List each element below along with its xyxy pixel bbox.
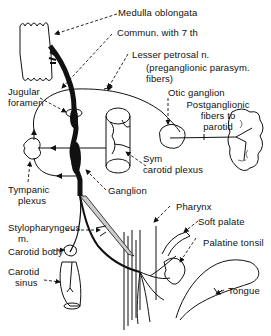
label-carotid-plexus: carotid plexus [143,164,203,175]
label-plexus: plexus [18,195,46,206]
medulla-shape [20,23,52,81]
label-foramen: foramen [8,97,44,108]
label-tongue: Tongue [228,285,260,296]
pharynx-shape [124,226,156,330]
label-lesser-petrosal-line3: fibers) [146,73,173,84]
label-parotid: parotid [180,121,256,132]
label-jugular: Jugular [8,86,40,97]
label-carotid-body: Carotid body [8,246,63,257]
label-postganglionic-fibers-to: fibers to [180,110,256,121]
label-sym: Sym [143,153,162,164]
carotid-cylinder [106,108,130,124]
label-stylopharyngeus: Stylopharyngeus [8,222,80,233]
label-lesser-petrosal: Lesser petrosal n. [132,49,209,60]
label-sinus: sinus [15,277,38,288]
label-carotid: Carotid [8,266,39,277]
tympanic-plexus-shape [24,138,41,159]
label-ganglion: Ganglion [108,185,147,196]
tympanic-loop [33,89,180,132]
label-palatine-tonsil: Palatine tonsil [203,237,264,248]
label-pharynx: Pharynx [176,201,212,212]
label-stylopharyngeus-m: m. [18,233,29,244]
label-otic-ganglion: Otic ganglion [168,87,225,98]
label-tympanic: Tympanic [8,184,49,195]
soft-palate-shape [162,232,190,256]
label-commun-with-7th: Commun. with 7 th [117,27,198,38]
label-medulla-oblongata: Medulla oblongata [118,7,197,18]
label-lesser-petrosal-line2: (preganglionic parasym. [146,62,250,73]
palatine-tonsil-shape [164,258,185,284]
label-postganglionic: Postganglionic [180,99,256,110]
glossopharyngeal-diagram: Medulla oblongata Commun. with 7 th Less… [0,0,271,336]
inferior-ganglion [71,142,81,174]
label-soft-palate: Soft palate [198,216,245,227]
